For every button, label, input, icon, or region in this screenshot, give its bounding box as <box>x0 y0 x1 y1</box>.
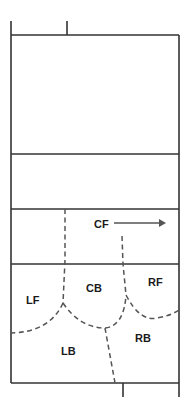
zone-label-cf: CF <box>94 218 109 230</box>
left-back-curve <box>11 303 63 333</box>
court-lines <box>11 21 179 397</box>
zone-label-lf: LF <box>26 294 40 306</box>
court-diagram: CF LF CB RF LB RB <box>0 0 188 410</box>
arrow-head-icon <box>159 219 166 227</box>
center-back-curve <box>63 295 126 328</box>
back-divider-dash <box>105 328 115 383</box>
cf-arrow <box>114 219 166 227</box>
zone-label-rf: RF <box>148 276 163 288</box>
right-vertical-dash <box>122 236 126 295</box>
zone-label-rb: RB <box>135 332 151 344</box>
zone-label-cb: CB <box>86 282 102 294</box>
zone-label-lb: LB <box>61 345 76 357</box>
left-vertical-dash <box>63 209 65 303</box>
right-back-curve <box>126 295 179 319</box>
